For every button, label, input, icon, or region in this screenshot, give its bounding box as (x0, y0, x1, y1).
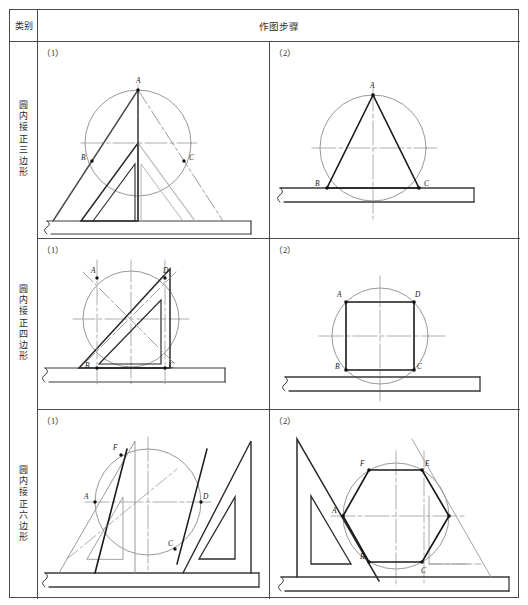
set-square-right-outline (183, 441, 251, 573)
vertex-dot-c (182, 159, 185, 162)
row-label-hexagon: 圆内接正六边形 (10, 409, 37, 599)
point-label-b: B (81, 153, 86, 162)
steps-header: 作图步骤 (37, 10, 520, 41)
point-label-a: A (135, 76, 141, 85)
vertex-dot-a (93, 500, 96, 503)
row-label-square: 圆内接正四边形 (10, 238, 37, 409)
point-label-a: A (331, 506, 337, 515)
point-label-c: C (168, 539, 173, 548)
drawing-table-page: 类别 作图步骤 圆内接正三边形 圆内接正四边形 圆内接正六边形 （1） （2） … (0, 0, 528, 605)
hexagon-side-cd (177, 449, 207, 564)
point-label-e: E (424, 459, 430, 468)
point-label-b: B (315, 179, 320, 188)
vertex-dot-d (163, 276, 166, 279)
vertex-dot-a (136, 88, 139, 91)
set-square-right-ghost-inner (429, 496, 469, 564)
tsquare-break-line (278, 188, 283, 202)
point-label-c: C (417, 362, 422, 371)
vertex-dot-a (371, 93, 375, 97)
point-label-b: B (85, 361, 90, 370)
tsquare-break-line (279, 577, 284, 591)
construction-dash-line (67, 469, 177, 559)
steps-header-text: 作图步骤 (259, 19, 299, 33)
figure-triangle-step1: A B C (37, 41, 269, 238)
vertex-dot-e (420, 468, 424, 472)
vertex-dot-c (420, 560, 424, 564)
point-label-a: A (83, 492, 89, 501)
point-label-c: C (421, 566, 426, 575)
figure-square-step2: A D B C (269, 238, 520, 409)
point-label-c: C (189, 153, 194, 162)
vertex-dot-c (163, 366, 166, 369)
tsquare-break-line (43, 368, 48, 382)
point-label-d: D (162, 266, 169, 275)
tsquare-break-line (45, 221, 50, 234)
vertex-dot-c (173, 547, 176, 550)
vertex-dot-c (417, 186, 421, 190)
point-label-c: C (169, 361, 174, 370)
figure-triangle-step2: A B C (269, 41, 520, 238)
point-label-a: A (336, 290, 342, 299)
vertex-dot-a (344, 300, 348, 304)
point-label-c: C (424, 179, 429, 188)
vertex-dot-d (412, 300, 416, 304)
figure-square-step1: A D B C (37, 238, 269, 409)
point-label-f: F (359, 459, 365, 468)
set-square-45-inner (99, 300, 161, 364)
vertex-dot-b (90, 159, 93, 162)
point-label-d: D (202, 492, 209, 501)
tsquare-break-line (283, 377, 288, 391)
vertex-dot-b (367, 560, 371, 564)
vertex-dot-a (341, 514, 345, 518)
point-label-d: D (414, 290, 421, 299)
vertex-dot-a (95, 276, 98, 279)
category-header: 类别 (10, 10, 37, 41)
category-header-text: 类别 (15, 21, 33, 31)
set-square-45 (79, 269, 170, 368)
set-square-right-ghost-inner (141, 164, 183, 221)
vertex-dot-b (95, 366, 98, 369)
point-label-a: A (90, 266, 96, 275)
steps-table: 类别 作图步骤 圆内接正三边形 圆内接正四边形 圆内接正六边形 （1） （2） … (9, 9, 519, 598)
row-label-triangle: 圆内接正三边形 (10, 41, 37, 238)
vertex-dot-b (325, 186, 329, 190)
vertex-dot-c (412, 368, 416, 372)
set-square-left (81, 143, 138, 221)
vertex-dot-f (119, 453, 122, 456)
point-label-f: F (112, 443, 118, 452)
set-square-left-inner (93, 164, 135, 221)
vertex-dot-d (447, 514, 451, 518)
vertex-dot-f (367, 468, 371, 472)
point-label-a: A (369, 81, 375, 90)
set-square-left (297, 439, 379, 581)
hexagon-side-af (95, 449, 127, 573)
figure-hexagon-step1: F A D C (37, 409, 269, 599)
tsquare-break-line (43, 573, 48, 587)
point-label-b: B (335, 362, 340, 371)
vertex-dot-b (344, 368, 348, 372)
point-label-b: B (360, 552, 365, 561)
set-square-right-ghost (138, 143, 195, 221)
figure-hexagon-step2: F E A B C (269, 409, 520, 599)
